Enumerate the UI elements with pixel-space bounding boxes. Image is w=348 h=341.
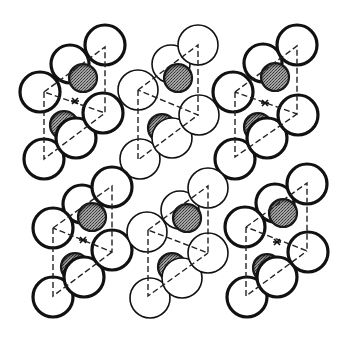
inversion-center-icon (79, 237, 87, 243)
shaded-atom-shadow (79, 204, 106, 231)
shaded-atom-shadow (70, 65, 97, 92)
open-atom (288, 232, 328, 272)
open-atom (127, 212, 167, 252)
unit-bottom-left (33, 167, 132, 317)
open-atom (225, 207, 265, 247)
open-atom (278, 95, 318, 135)
shaded-atom-shadow (165, 65, 192, 92)
unit-top-right (213, 25, 318, 179)
shaded-atom-shadow (262, 64, 289, 91)
inversion-center-icon (261, 100, 269, 106)
open-atom (85, 25, 125, 65)
crystal-packing-diagram (0, 0, 348, 341)
open-atom (213, 72, 253, 112)
units-layer (20, 25, 328, 318)
unit-top-middle (118, 25, 219, 179)
shaded-atom-shadow (270, 200, 297, 227)
unit-top-left (20, 25, 125, 179)
open-atom (83, 93, 123, 133)
unit-bottom-middle (127, 168, 228, 318)
open-atom (20, 72, 60, 112)
open-atom (179, 95, 219, 135)
unit-bottom-right (225, 164, 328, 317)
